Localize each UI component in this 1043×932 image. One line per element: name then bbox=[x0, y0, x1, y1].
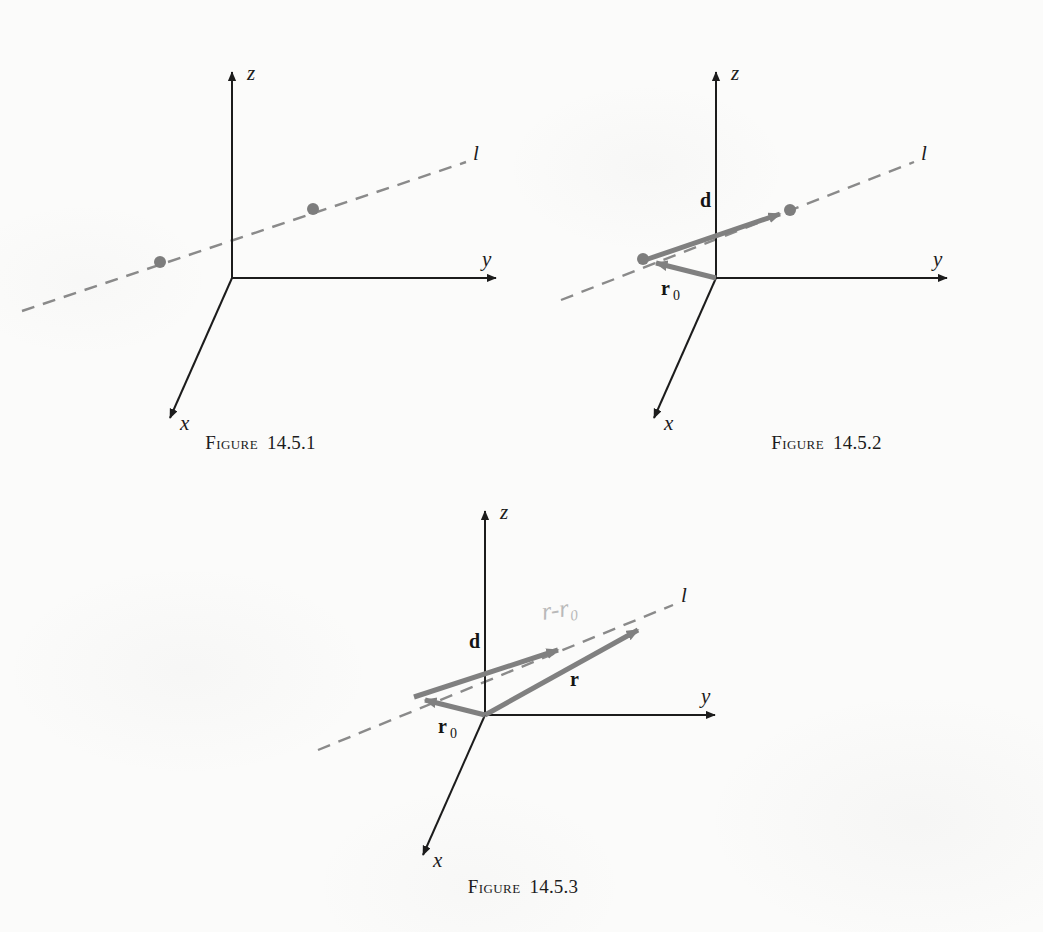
x-axis-label: x bbox=[432, 848, 443, 872]
figure-3-caption-number: 14.5.3 bbox=[529, 876, 578, 897]
line-l bbox=[318, 605, 673, 750]
figure-1-caption-word: Figure bbox=[205, 432, 258, 453]
vector-r0-label-group: r 0 bbox=[438, 715, 457, 741]
figure-2-diagram: z y x l d r 0 bbox=[484, 0, 1024, 470]
point-b bbox=[307, 203, 319, 215]
line-l-label: l bbox=[681, 583, 687, 607]
figure-1-caption: Figure14.5.1 bbox=[0, 432, 521, 454]
line-l-label: l bbox=[921, 141, 927, 165]
point-d-tip bbox=[784, 204, 796, 216]
z-axis-label: z bbox=[499, 500, 508, 524]
vector-r0-label-group: r 0 bbox=[661, 277, 680, 303]
vector-d-label: d bbox=[700, 189, 711, 211]
figure-3-caption-word: Figure bbox=[468, 876, 521, 897]
vector-r-label: r bbox=[570, 668, 579, 690]
line-l bbox=[22, 162, 466, 311]
y-axis-label: y bbox=[699, 684, 711, 708]
vector-r0-label: r bbox=[438, 715, 447, 737]
vector-r0-label: r bbox=[661, 277, 670, 299]
figure-3-caption: Figure14.5.3 bbox=[253, 876, 793, 898]
figure-2-caption: Figure14.5.2 bbox=[484, 432, 1024, 454]
figure-2-caption-number: 14.5.2 bbox=[833, 432, 882, 453]
figure-2-caption-word: Figure bbox=[771, 432, 824, 453]
x-axis bbox=[170, 278, 232, 418]
point-a bbox=[154, 256, 166, 268]
vector-d-label: d bbox=[469, 630, 480, 652]
x-axis bbox=[654, 278, 716, 418]
figure-1-diagram: z y x l bbox=[0, 0, 521, 470]
point-r0 bbox=[637, 253, 649, 265]
line-l-label: l bbox=[473, 141, 479, 165]
figure-14-5-3: z y x l r-r₀ d r r 0 Figure14.5.3 bbox=[253, 478, 793, 928]
z-axis-label: z bbox=[730, 61, 739, 85]
figure-3-diagram: z y x l r-r₀ d r r 0 bbox=[253, 478, 793, 928]
handwritten-note: r-r₀ bbox=[540, 593, 580, 625]
figure-14-5-2: z y x l d r 0 Figure14.5.2 bbox=[484, 0, 1024, 470]
figure-1-caption-number: 14.5.1 bbox=[267, 432, 316, 453]
vector-r0 bbox=[656, 263, 716, 278]
vector-r0-subscript: 0 bbox=[673, 288, 680, 303]
z-axis-label: z bbox=[246, 61, 255, 85]
vector-r0-subscript: 0 bbox=[450, 726, 457, 741]
y-axis-label: y bbox=[931, 247, 943, 271]
vector-d bbox=[645, 214, 780, 260]
figure-14-5-1: z y x l Figure14.5.1 bbox=[0, 0, 521, 470]
vector-r0 bbox=[425, 700, 485, 715]
